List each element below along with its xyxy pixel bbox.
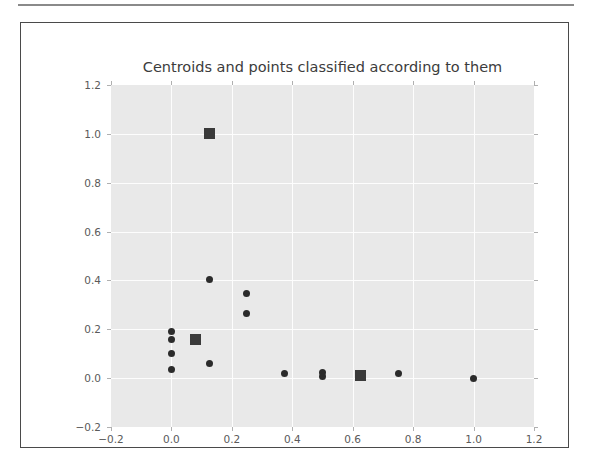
data-point-marker (168, 350, 175, 357)
x-axis-tick (111, 81, 112, 85)
data-point-marker (168, 366, 175, 373)
y-axis-tick (534, 427, 538, 428)
data-point-marker (395, 370, 402, 377)
gridline-vertical (232, 85, 233, 427)
x-axis-tick (171, 427, 172, 431)
x-axis-tick (413, 81, 414, 85)
data-point-marker (168, 336, 175, 343)
gridline-horizontal (111, 232, 534, 233)
top-divider-rule (18, 4, 574, 6)
x-axis-tick-label: 0.6 (344, 433, 361, 445)
y-axis-tick (534, 183, 538, 184)
x-axis-tick (474, 81, 475, 85)
x-axis-tick (413, 427, 414, 431)
figure-frame: Centroids and points classified accordin… (20, 22, 569, 448)
y-axis-tick-label: 0.4 (84, 274, 101, 286)
y-axis-tick (107, 85, 111, 86)
gridline-horizontal (111, 280, 534, 281)
data-point-marker (319, 373, 326, 380)
data-point-marker (168, 328, 175, 335)
data-point-marker (281, 370, 288, 377)
x-axis-tick (111, 427, 112, 431)
x-axis-tick-label: 1.2 (526, 433, 543, 445)
y-axis-tick-label: −0.2 (76, 421, 102, 433)
scatter-plot-axes: Centroids and points classified accordin… (111, 85, 534, 427)
y-axis-tick-label: 0.0 (84, 372, 101, 384)
data-point-marker (243, 310, 250, 317)
data-point-marker (470, 375, 477, 382)
gridline-horizontal (111, 183, 534, 184)
y-axis-tick (107, 427, 111, 428)
y-axis-tick-label: 0.2 (84, 323, 101, 335)
gridline-vertical (353, 85, 354, 427)
y-axis-tick (107, 329, 111, 330)
y-axis-tick (107, 134, 111, 135)
data-point-marker (206, 276, 213, 283)
x-axis-tick-label: 0.4 (284, 433, 301, 445)
x-axis-tick (353, 81, 354, 85)
y-axis-tick (107, 378, 111, 379)
y-axis-tick (534, 378, 538, 379)
x-axis-tick-label: 0.2 (223, 433, 240, 445)
chart-title: Centroids and points classified accordin… (143, 59, 502, 75)
x-axis-tick (292, 81, 293, 85)
y-axis-tick-label: 1.2 (84, 79, 101, 91)
y-axis-tick (534, 85, 538, 86)
x-axis-tick (232, 81, 233, 85)
y-axis-tick (534, 134, 538, 135)
x-axis-tick-label: −0.2 (98, 433, 124, 445)
centroid-marker (355, 370, 366, 381)
gridline-vertical (292, 85, 293, 427)
gridline-vertical (171, 85, 172, 427)
x-axis-tick-label: 1.0 (465, 433, 482, 445)
x-axis-tick-label: 0.0 (163, 433, 180, 445)
y-axis-tick (107, 280, 111, 281)
data-point-marker (243, 290, 250, 297)
x-axis-tick (171, 81, 172, 85)
x-axis-tick-label: 0.8 (405, 433, 422, 445)
y-axis-tick-label: 1.0 (84, 128, 101, 140)
y-axis-tick (107, 232, 111, 233)
x-axis-tick (474, 427, 475, 431)
data-point-marker (206, 360, 213, 367)
x-axis-tick (232, 427, 233, 431)
centroid-marker (204, 128, 215, 139)
gridline-vertical (413, 85, 414, 427)
y-axis-tick-label: 0.6 (84, 226, 101, 238)
gridline-horizontal (111, 134, 534, 135)
x-axis-tick (353, 427, 354, 431)
centroid-marker (190, 334, 201, 345)
x-axis-tick (292, 427, 293, 431)
y-axis-tick-label: 0.8 (84, 177, 101, 189)
y-axis-tick (534, 280, 538, 281)
y-axis-tick (534, 329, 538, 330)
y-axis-tick (534, 232, 538, 233)
y-axis-tick (107, 183, 111, 184)
